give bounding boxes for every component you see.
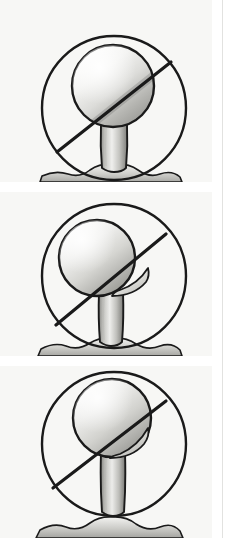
panel-3-golf-tee (101, 449, 126, 516)
panel-gap-2 (0, 356, 212, 366)
illustration-panel-2: Tee height position 2 — ball shifted lef… (0, 192, 212, 356)
panel-gap-1 (0, 182, 212, 192)
panel-2-drawing (0, 192, 212, 356)
figure-root: Tee height position 1 — ball centered, l… (0, 0, 234, 538)
illustration-panel-3: Tee height position 3 — ball raised and … (0, 366, 212, 538)
panel-2-golf-tee (99, 289, 124, 346)
panel-1-drawing (0, 0, 212, 182)
panel-3-drawing (0, 366, 212, 538)
panel-2-golf-ball (59, 220, 135, 296)
panel-1-golf-tee (101, 121, 128, 172)
right-divider-line (222, 0, 223, 538)
right-margin (212, 0, 234, 538)
illustration-panel-1: Tee height position 1 — ball centered, l… (0, 0, 212, 182)
